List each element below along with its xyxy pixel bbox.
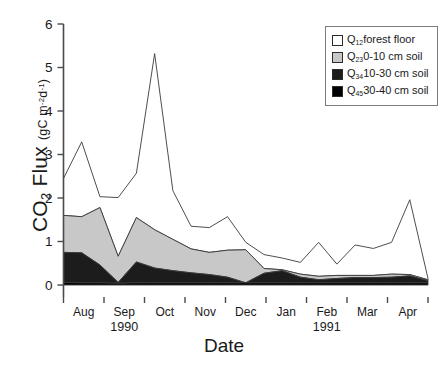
chart-legend: Q12forest floorQ230-10 cm soilQ3410-30 c…: [325, 26, 438, 106]
x-tick-label: Feb: [316, 305, 337, 319]
chart-figure: CO2 Flux (gC m-2d-1) AugSepOctNovDecJanF…: [0, 0, 448, 367]
legend-item-label: Q3410-30 cm soil: [347, 68, 429, 80]
legend-swatch-icon: [332, 52, 343, 63]
legend-item-label: Q230-10 cm soil: [347, 51, 422, 63]
y-axis-title: CO2 Flux (gC m-2d-1): [28, 79, 53, 232]
x-axis-year-label: 1990: [110, 320, 138, 334]
y-units-c: ): [36, 79, 50, 83]
y-axis-title-rest: Flux: [28, 146, 51, 193]
legend-item[interactable]: Q230-10 cm soil: [332, 49, 431, 66]
y-units-b: d: [36, 91, 50, 98]
y-units-exp1: -2: [37, 98, 46, 105]
x-tick-label: Nov: [195, 305, 216, 319]
x-tick-label: Jan: [277, 305, 296, 319]
y-ticks-group: [58, 24, 64, 285]
legend-item-label: Q4530-40 cm soil: [347, 85, 429, 97]
x-axis-title: Date: [0, 335, 448, 357]
legend-item[interactable]: Q3410-30 cm soil: [332, 66, 431, 83]
legend-swatch-icon: [332, 35, 343, 46]
legend-swatch-icon: [332, 69, 343, 80]
x-tick-labels-group: AugSepOctNovDecJanFebMarApr: [73, 305, 417, 319]
x-axis-year-label: 1991: [313, 320, 341, 334]
legend-item[interactable]: Q12forest floor: [332, 32, 431, 49]
x-tick-label: Apr: [398, 305, 417, 319]
y-axis-units: (gC m-2d-1): [36, 79, 50, 140]
x-tick-label: Oct: [155, 305, 174, 319]
y-axis-title-main: CO: [28, 200, 51, 232]
x-tick-label: Mar: [357, 305, 378, 319]
legend-item[interactable]: Q4530-40 cm soil: [332, 83, 431, 100]
legend-item-label: Q12forest floor: [347, 34, 415, 46]
y-axis-title-subscript: 2: [38, 193, 53, 200]
x-tick-label: Dec: [235, 305, 256, 319]
x-tick-label: Sep: [114, 305, 136, 319]
legend-swatch-icon: [332, 86, 343, 97]
y-axis-title-container: CO2 Flux (gC m-2d-1): [0, 0, 56, 367]
x-ticks-group: [64, 297, 429, 303]
y-units-exp2: -1: [37, 83, 46, 90]
year-labels-group: 19901991: [110, 320, 340, 334]
y-units-a: (gC m: [36, 105, 50, 140]
x-tick-label: Aug: [73, 305, 94, 319]
